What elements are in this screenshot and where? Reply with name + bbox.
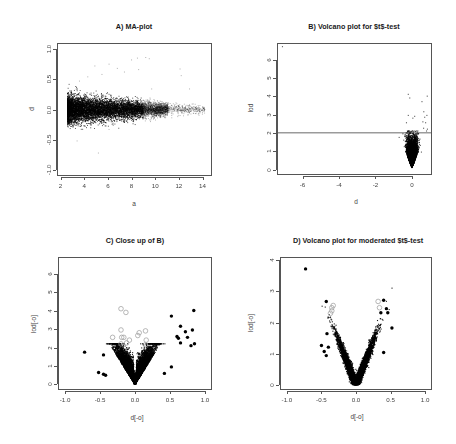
panel-b-ytick xyxy=(273,170,276,171)
panel-c-ytick-label: 0 xyxy=(46,383,53,386)
panel-c-xtick-label: -1.0 xyxy=(60,396,71,403)
panel-a-ytick-label: 0.0 xyxy=(45,105,52,114)
panel-c-xtick-label: -0.5 xyxy=(95,396,106,403)
panel-b-ytick-label: 6 xyxy=(265,58,272,61)
panel-a-xtick-label: 2 xyxy=(59,182,62,189)
panel-d-xtick-label: -1.0 xyxy=(282,396,293,403)
panel-d-xtick-label: 0.0 xyxy=(352,396,361,403)
panel-a-ytick-label: 0.5 xyxy=(45,75,52,84)
panel-b-ytick-label: 0 xyxy=(265,168,272,171)
panel-b-xtick-label: -2 xyxy=(373,181,379,188)
panel-c-xtick-label: 0.0 xyxy=(131,396,140,403)
panel-d-x-axis xyxy=(287,391,425,392)
panel-d-xtick-label: 0.5 xyxy=(386,396,395,403)
panel-a-ytick-label: -1.0 xyxy=(45,165,52,176)
panel-c-plot-box xyxy=(58,257,212,390)
panel-d-ytick-label: 0 xyxy=(268,384,275,387)
panel-a-ytick-label: 1.0 xyxy=(45,45,52,54)
panel-b-ytick-label: 5 xyxy=(265,76,272,79)
panel-a-xtick xyxy=(203,177,204,180)
panel-b-ytick-label: 4 xyxy=(265,94,272,97)
panel-b-xtick xyxy=(412,176,413,179)
panel-a-xtick-label: 14 xyxy=(199,182,206,189)
panel-d-xtick-label: -0.5 xyxy=(316,396,327,403)
panel-c-ytick-label: 6 xyxy=(46,272,53,275)
panel-b-xtick-label: -4 xyxy=(336,181,342,188)
panel-c-ytick-label: 1 xyxy=(46,364,53,367)
panel-b-ytick-label: 3 xyxy=(265,113,272,116)
panel-c-ytick xyxy=(54,384,57,385)
panel-d-ytick-label: 2 xyxy=(268,321,275,324)
panel-c-ytick-label: 3 xyxy=(46,327,53,330)
panel-a-xtick-label: 6 xyxy=(106,182,109,189)
panel-c-xtick-label: 1.0 xyxy=(201,396,210,403)
panel-c-ytick-label: 5 xyxy=(46,290,53,293)
panel-c-xtick xyxy=(205,391,206,394)
panel-a-xtick-label: 4 xyxy=(82,182,85,189)
panel-a-ytick xyxy=(53,170,56,171)
panel-c-x-axis xyxy=(65,391,205,392)
panel-b-x-axis xyxy=(303,176,412,177)
panel-d-xtick xyxy=(425,391,426,394)
panel-c-ytick-label: 2 xyxy=(46,346,53,349)
panel-d-ytick-label: 3 xyxy=(268,290,275,293)
panel-c-ytick-label: 4 xyxy=(46,309,53,312)
panel-b-ytick-label: 1 xyxy=(265,149,272,152)
panel-d-ytick-label: 1 xyxy=(268,352,275,355)
panel-d-ytick-label: 4 xyxy=(268,258,275,261)
panel-b-ytick-label: 2 xyxy=(265,131,272,134)
panel-b-xtick-label: 0 xyxy=(410,181,413,188)
panel-a-x-axis xyxy=(61,177,203,178)
panel-b-plot-box xyxy=(277,43,432,175)
panel-a-xtick-label: 10 xyxy=(152,182,159,189)
panel-d-plot-box xyxy=(280,257,432,390)
panel-d-ytick xyxy=(276,385,279,386)
panel-a-xtick-label: 8 xyxy=(130,182,133,189)
panel-d-xtick-label: 1.0 xyxy=(421,396,430,403)
panel-b-xtick-label: -6 xyxy=(300,181,306,188)
panel-c-xtick-label: 0.5 xyxy=(166,396,175,403)
panel-a-xtick-label: 12 xyxy=(175,182,182,189)
panel-a-plot-box xyxy=(57,43,212,176)
panel-a-ytick-label: -0.5 xyxy=(45,134,52,145)
